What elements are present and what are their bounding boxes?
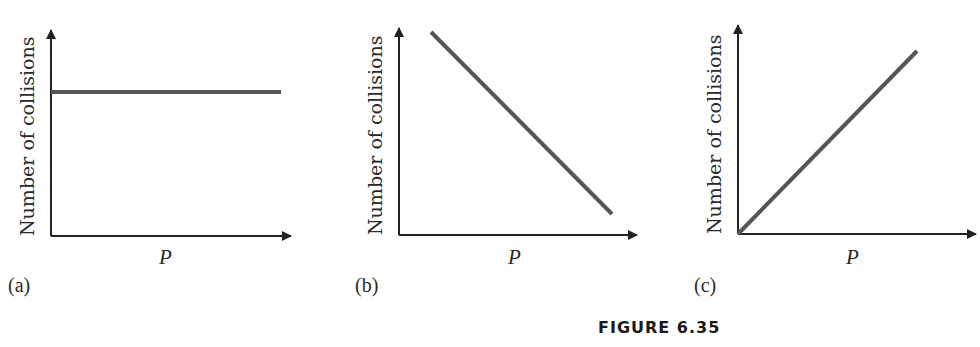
panel-label: (a) <box>8 274 30 297</box>
panel-a: Number of collisions P (a) <box>8 30 291 297</box>
panel-c: Number of collisions P (c) <box>694 25 976 297</box>
figure-caption: FIGURE 6.35 <box>598 318 720 337</box>
decreasing-line <box>431 32 612 214</box>
y-axis-label: Number of collisions <box>364 36 386 235</box>
y-axis-label: Number of collisions <box>703 35 725 234</box>
x-axis-label: P <box>845 245 859 269</box>
panel-b: Number of collisions P (b) <box>355 28 637 297</box>
panel-label: (b) <box>355 274 378 297</box>
x-axis-label: P <box>158 245 172 269</box>
figure-canvas: Number of collisions P (a) Number of col… <box>0 0 980 347</box>
x-axis-label: P <box>507 245 521 269</box>
panel-label: (c) <box>694 274 716 297</box>
increasing-line <box>738 51 917 234</box>
y-axis-label: Number of collisions <box>16 37 38 236</box>
